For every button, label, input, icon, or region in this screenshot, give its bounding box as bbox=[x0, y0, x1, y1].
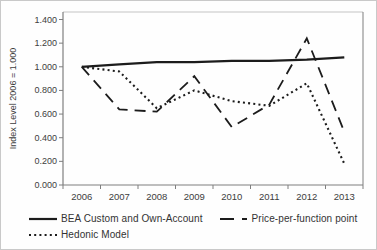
y-tick-label: 0.400 bbox=[34, 133, 57, 143]
x-tick-label: 2007 bbox=[109, 191, 130, 202]
x-tick-label: 2009 bbox=[184, 191, 205, 202]
chart-figure: 0.0000.2000.4000.6000.8001.0001.2001.400… bbox=[0, 0, 377, 250]
legend-item-1: Price-per-function point bbox=[219, 213, 358, 224]
y-tick-label: 1.200 bbox=[34, 38, 57, 48]
y-tick-label: 0.000 bbox=[34, 180, 57, 190]
x-tick-label: 2013 bbox=[334, 191, 355, 202]
y-axis-title: Index Level 2006 = 1.000 bbox=[8, 48, 18, 149]
series-line-0 bbox=[82, 57, 345, 67]
legend-solid-line-icon bbox=[28, 215, 58, 223]
y-tick-label: 0.200 bbox=[34, 156, 57, 166]
chart-legend: BEA Custom and Own-AccountPrice-per-func… bbox=[28, 213, 368, 240]
x-tick-label: 2008 bbox=[146, 191, 167, 202]
y-tick-label: 0.800 bbox=[34, 85, 57, 95]
x-tick-label: 2011 bbox=[259, 191, 279, 202]
legend-item-0: BEA Custom and Own-Account bbox=[28, 213, 203, 224]
y-tick-label: 0.600 bbox=[34, 109, 57, 119]
legend-item-2: Hedonic Model bbox=[28, 229, 129, 240]
x-tick-label: 2006 bbox=[71, 191, 92, 202]
legend-label: Hedonic Model bbox=[61, 229, 129, 240]
legend-label: BEA Custom and Own-Account bbox=[61, 213, 203, 224]
line-chart-canvas: 0.0000.2000.4000.6000.8001.0001.2001.400… bbox=[1, 1, 376, 249]
series-line-2 bbox=[82, 67, 345, 164]
x-tick-label: 2012 bbox=[296, 191, 317, 202]
x-tick-label: 2010 bbox=[221, 191, 242, 202]
y-tick-label: 1.400 bbox=[34, 15, 57, 25]
y-tick-label: 1.000 bbox=[34, 62, 57, 72]
legend-label: Price-per-function point bbox=[252, 213, 358, 224]
legend-dashed-line-icon bbox=[219, 215, 249, 223]
legend-dotted-line-icon bbox=[28, 231, 58, 239]
